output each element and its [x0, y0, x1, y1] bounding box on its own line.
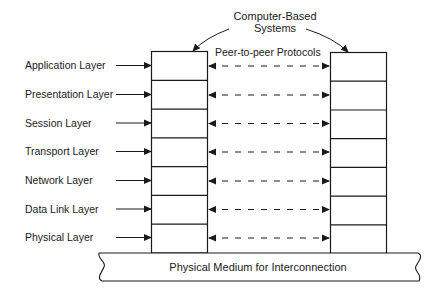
title-computer-based-systems: Computer-Based Systems — [233, 10, 316, 34]
layer-label: Application Layer — [25, 59, 106, 71]
layer-label: Network Layer — [25, 174, 93, 186]
title-line-1: Computer-Based — [233, 10, 316, 22]
layer-label: Presentation Layer — [25, 88, 114, 100]
left-system-stack — [152, 52, 208, 254]
title-line-2: Systems — [254, 22, 297, 34]
physical-medium-bar: Physical Medium for Interconnection — [99, 253, 421, 281]
osi-model-diagram: Computer-Based Systems Peer-to-peer Prot… — [0, 0, 442, 297]
layer-label: Session Layer — [25, 117, 92, 129]
right-system-stack — [331, 53, 387, 254]
peer-to-peer-protocols-label: Peer-to-peer Protocols — [215, 46, 321, 58]
layer-label: Transport Layer — [25, 145, 99, 157]
layer-label: Data Link Layer — [25, 203, 99, 215]
layer-label: Physical Layer — [25, 231, 94, 243]
physical-medium-label: Physical Medium for Interconnection — [169, 261, 346, 273]
